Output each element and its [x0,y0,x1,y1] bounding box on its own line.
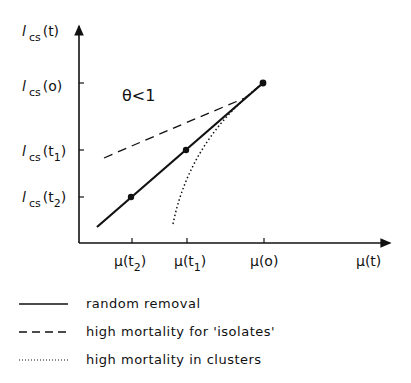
y-tick-label-o: lcs(o) [22,78,62,99]
legend-item-clusters: high mortality in clusters [19,352,262,367]
svg-text:random removal: random removal [86,296,201,311]
clusters-mortality-curve [173,84,262,224]
x-axis-title: μ(t) [356,253,381,269]
y-tick-label-t2: lcs(t2) [22,189,66,210]
theta-condition-label: θ<1 [122,86,155,105]
y-tick-label-t1: lcs(t1) [22,143,66,164]
legend-item-isolates: high mortality for 'isolates' [19,324,275,339]
y-axis-title: lcs(t) [22,23,59,44]
legend-item-random-removal: random removal [19,296,201,311]
x-tick-label-o: μ(o) [250,253,278,269]
point-o [260,80,267,87]
point-t2 [128,194,134,200]
svg-text:high mortality for 'isolates': high mortality for 'isolates' [86,324,275,339]
legend: random removal high mortality for 'isola… [19,296,275,367]
point-t1 [183,147,189,153]
diagram-canvas: lcs(t) lcs(o) lcs(t1) lcs(t2) μ(t2) μ(t1… [0,0,411,383]
x-tick-label-t2: μ(t2) [114,253,146,274]
x-tick-label-t1: μ(t1) [174,253,206,274]
svg-text:high mortality in clusters: high mortality in clusters [86,352,262,367]
